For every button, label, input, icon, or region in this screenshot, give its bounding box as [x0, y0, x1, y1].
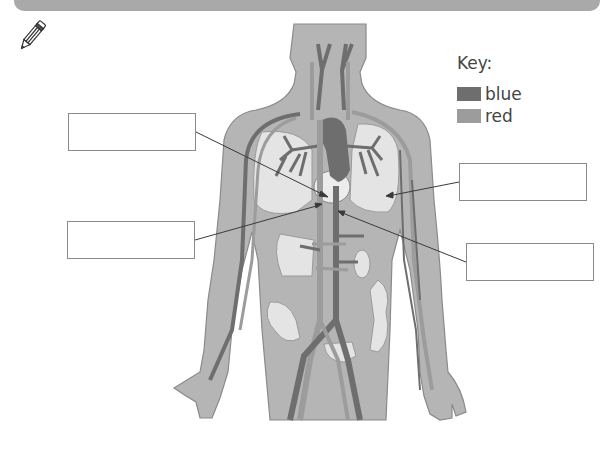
key-item-label: blue — [485, 84, 522, 104]
key-item-blue: blue — [457, 83, 522, 105]
kidney — [354, 250, 370, 278]
key-item-label: red — [485, 106, 513, 126]
blue-swatch — [457, 87, 481, 101]
left-lung — [254, 131, 312, 213]
key-item-red: red — [457, 105, 522, 127]
key-legend: Key: blue red — [457, 53, 522, 127]
label-box-right-top[interactable] — [459, 163, 587, 201]
label-box-left-top[interactable] — [68, 113, 196, 151]
red-swatch — [457, 109, 481, 123]
label-box-left-bottom[interactable] — [67, 221, 195, 259]
key-title: Key: — [457, 53, 522, 73]
label-box-right-bottom[interactable] — [466, 243, 594, 281]
liver — [276, 234, 314, 276]
